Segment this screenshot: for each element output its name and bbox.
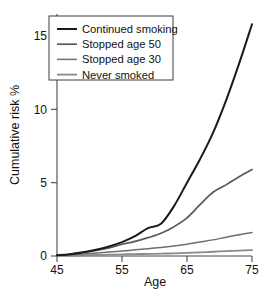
y-tick-label-group: 051015 [34, 29, 48, 263]
x-tick-group [57, 256, 252, 262]
x-tick-label: 75 [245, 263, 259, 277]
x-tick-label: 55 [115, 263, 129, 277]
x-axis-title: Age [144, 275, 166, 289]
x-axis: 45556575 Age [50, 256, 259, 289]
x-tick-label: 65 [180, 263, 194, 277]
y-tick-label: 5 [40, 176, 47, 190]
series-line [57, 169, 252, 255]
x-tick-label: 45 [50, 263, 64, 277]
legend-label: Continued smoking [82, 23, 178, 35]
legend-label: Never smoked [82, 69, 154, 81]
cumulative-risk-chart: 051015 Cumulative risk % 45556575 Age Co… [0, 0, 271, 293]
legend-label: Stopped age 50 [82, 38, 161, 50]
y-tick-label: 15 [34, 29, 48, 43]
legend-label: Stopped age 30 [82, 53, 161, 65]
y-tick-label: 0 [40, 249, 47, 263]
y-tick-label: 10 [34, 103, 48, 117]
legend: Continued smokingStopped age 50Stopped a… [49, 16, 178, 81]
y-axis-title: Cumulative risk % [8, 85, 22, 185]
chart-canvas: 051015 Cumulative risk % 45556575 Age Co… [0, 0, 271, 293]
